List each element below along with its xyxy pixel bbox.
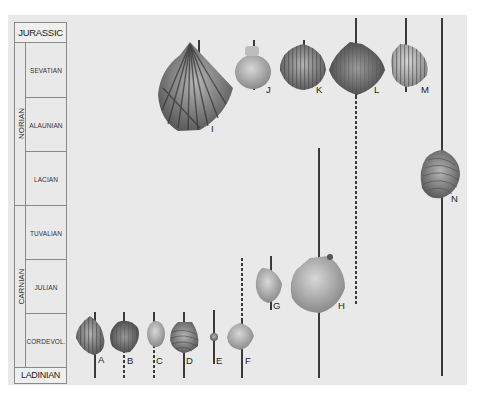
shell-specimens (0, 0, 481, 396)
shell-g (256, 268, 282, 303)
shell-h (291, 254, 345, 313)
shell-j (235, 46, 271, 89)
label-h: H (338, 300, 345, 311)
shell-a (76, 316, 104, 355)
label-c: C (156, 355, 163, 366)
label-a: A (98, 354, 104, 365)
shell-d (170, 322, 198, 353)
shell-i (158, 42, 233, 131)
label-l: L (374, 84, 379, 95)
label-j: J (266, 84, 271, 95)
label-d: D (186, 355, 193, 366)
label-g: G (273, 300, 280, 311)
shell-c (147, 321, 165, 347)
shell-b (110, 321, 139, 353)
label-e: E (216, 355, 222, 366)
label-n: N (451, 193, 458, 204)
label-f: F (245, 355, 251, 366)
shell-e (210, 333, 218, 341)
shell-m (391, 44, 427, 87)
shell-n (421, 150, 460, 198)
label-m: M (421, 84, 429, 95)
label-i: I (211, 123, 214, 134)
label-k: K (316, 84, 322, 95)
shell-f (227, 323, 254, 350)
label-b: B (127, 355, 133, 366)
